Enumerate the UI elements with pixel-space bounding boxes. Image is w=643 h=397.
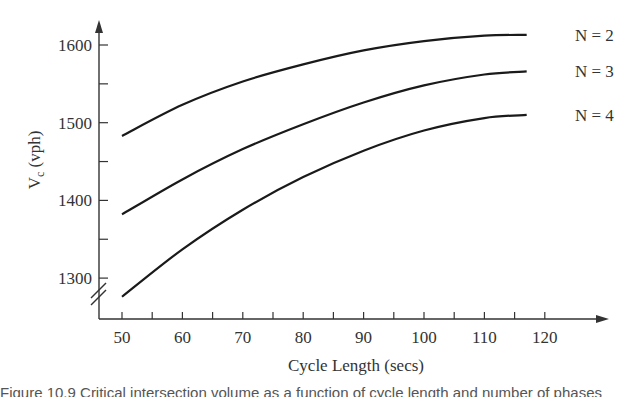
axes bbox=[91, 20, 609, 323]
x-axis-arrow-icon bbox=[596, 315, 609, 323]
y-tick-label: 1400 bbox=[58, 191, 92, 210]
legend-label-n2: N = 2 bbox=[575, 26, 614, 45]
x-tick-label: 100 bbox=[411, 328, 437, 347]
x-tick-label: 120 bbox=[532, 328, 558, 347]
y-tick-label: 1500 bbox=[58, 114, 92, 133]
x-tick-label: 60 bbox=[174, 328, 191, 347]
chart: 50607080901001101201300140015001600 N = … bbox=[0, 0, 643, 397]
series-line-n3 bbox=[122, 71, 527, 214]
y-axis-arrow-icon bbox=[95, 20, 103, 33]
x-tick-label: 50 bbox=[114, 328, 131, 347]
legend-label-n4: N = 4 bbox=[575, 106, 614, 125]
tick-marks bbox=[99, 45, 545, 319]
series-line-n4 bbox=[122, 115, 527, 297]
tick-labels: 50607080901001101201300140015001600 bbox=[58, 36, 558, 347]
x-tick-label: 80 bbox=[295, 328, 312, 347]
y-tick-label: 1300 bbox=[58, 269, 92, 288]
y-axis-title-unit: (vph) bbox=[25, 131, 44, 172]
data-lines bbox=[122, 35, 527, 297]
y-axis-title-main: V bbox=[25, 176, 44, 189]
x-axis-title: Cycle Length (secs) bbox=[288, 356, 424, 375]
y-axis-title: Vc (vph) bbox=[25, 131, 47, 190]
legend: N = 2N = 3N = 4 bbox=[575, 26, 614, 125]
y-tick-label: 1600 bbox=[58, 36, 92, 55]
legend-label-n3: N = 3 bbox=[575, 62, 614, 81]
x-tick-label: 70 bbox=[234, 328, 251, 347]
x-tick-label: 90 bbox=[355, 328, 372, 347]
x-tick-label: 110 bbox=[472, 328, 497, 347]
figure-caption: Figure 10.9 Critical intersection volume… bbox=[0, 384, 643, 397]
